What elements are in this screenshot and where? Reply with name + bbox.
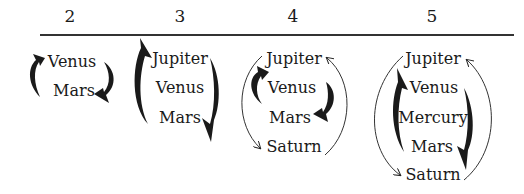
thick-arrow-up-icon [393, 68, 408, 152]
thick-arrow-up-icon [30, 54, 45, 97]
thick-arrow-down-icon [313, 82, 334, 122]
thick-arrow-down-icon [457, 88, 473, 170]
thick-arrow-down-icon [202, 58, 219, 142]
arrows-layer [0, 0, 524, 194]
thick-arrow-down-icon [94, 62, 114, 103]
thick-arrow-up-icon [251, 66, 269, 104]
thick-arrow-up-icon [135, 38, 152, 124]
